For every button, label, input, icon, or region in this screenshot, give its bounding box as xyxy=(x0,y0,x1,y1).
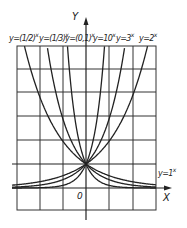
label-y-10-x: y=10x xyxy=(93,32,115,43)
label-y-third-x: y=(1/3)x xyxy=(39,32,68,43)
origin-label: 0 xyxy=(77,192,83,201)
x-axis-label: X xyxy=(163,193,170,203)
y-axis-label: Y xyxy=(72,12,78,22)
label-y-2-x: y=2x xyxy=(139,32,157,43)
label-y-1-x: y=1x xyxy=(158,167,176,178)
x-arrow-icon xyxy=(164,186,172,191)
label-y-half-x: y=(1/2)x xyxy=(9,32,38,43)
label-y-tenth-x: y=(0,1)x xyxy=(65,32,94,43)
y-arrow-icon xyxy=(84,17,89,25)
label-y-3-x: y=3x xyxy=(116,32,134,43)
axes xyxy=(12,17,172,220)
exponential-curves xyxy=(12,46,156,188)
